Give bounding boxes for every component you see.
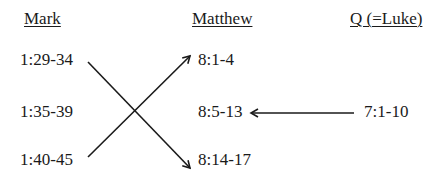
- arrow-mark3-to-matt1: [88, 56, 190, 157]
- arrow-mark1-to-matt3: [88, 62, 190, 168]
- arrows-layer: [0, 0, 447, 184]
